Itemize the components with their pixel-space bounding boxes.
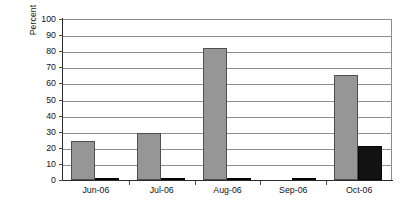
y-axis-tick-mark <box>59 116 63 117</box>
x-axis-category-separator <box>129 181 130 185</box>
x-axis-category-separator <box>195 181 196 185</box>
bars-layer <box>63 19 392 180</box>
bar <box>71 141 95 180</box>
y-axis-tick-label: 90 <box>26 31 56 40</box>
y-axis-tick-label: 100 <box>26 15 56 24</box>
y-axis-tick-mark <box>59 83 63 84</box>
bar <box>334 75 358 180</box>
bar <box>358 146 382 180</box>
y-axis-tick-mark <box>59 180 63 181</box>
x-axis-category-separator <box>260 181 261 185</box>
y-axis-tick-mark <box>59 35 63 36</box>
y-axis-tick-label: 10 <box>26 159 56 168</box>
y-axis-tick-mark <box>59 100 63 101</box>
x-axis-category-separator <box>326 181 327 185</box>
y-axis-tick-mark <box>59 164 63 165</box>
y-axis-tick-label: 60 <box>26 79 56 88</box>
bar <box>203 48 227 180</box>
y-axis-tick-label: 50 <box>26 95 56 104</box>
x-axis-tick-label: Oct-06 <box>326 185 392 195</box>
y-axis-tick-label: 40 <box>26 111 56 120</box>
x-axis-tick-labels: Jun-06Jul-06Aug-06Sep-06Oct-06 <box>63 185 392 203</box>
y-axis-tick-mark <box>59 132 63 133</box>
y-axis-tick-label: 80 <box>26 47 56 56</box>
x-axis-tick-label: Jul-06 <box>129 185 195 195</box>
bar <box>137 133 161 180</box>
y-axis-tick-label: 70 <box>26 63 56 72</box>
y-axis-tick-label: 30 <box>26 127 56 136</box>
x-axis-tick-label: Aug-06 <box>195 185 261 195</box>
bar-chart: Percent 0102030405060708090100 Jun-06Jul… <box>0 0 408 208</box>
y-axis-tick-mark <box>59 148 63 149</box>
x-axis-line <box>62 180 393 181</box>
y-axis-tick-mark <box>59 51 63 52</box>
y-axis-tick-labels: 0102030405060708090100 <box>26 13 56 186</box>
x-axis-tick-label: Sep-06 <box>260 185 326 195</box>
y-axis-tick-mark <box>59 19 63 20</box>
x-axis-tick-label: Jun-06 <box>63 185 129 195</box>
y-axis-tick-label: 0 <box>26 176 56 185</box>
y-axis-tick-label: 20 <box>26 143 56 152</box>
y-axis-tick-mark <box>59 67 63 68</box>
